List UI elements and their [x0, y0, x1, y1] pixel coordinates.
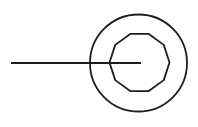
- concentric-circle-diagram: [0, 0, 198, 127]
